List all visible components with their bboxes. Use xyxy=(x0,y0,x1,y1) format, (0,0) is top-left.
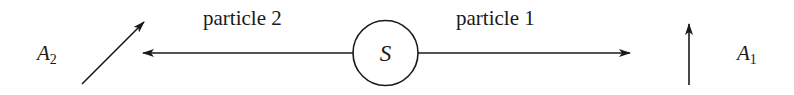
analyzer-a1-label: A1 xyxy=(735,41,757,67)
diagram-canvas: A2 particle 2 S particle 1 A1 xyxy=(0,0,794,95)
analyzer-a2-label: A2 xyxy=(35,41,57,67)
source-label: S xyxy=(380,41,392,66)
analyzer-a2-arrow-icon xyxy=(82,22,144,84)
particle-2-label: particle 2 xyxy=(203,6,282,30)
particle-1-label: particle 1 xyxy=(456,6,535,30)
